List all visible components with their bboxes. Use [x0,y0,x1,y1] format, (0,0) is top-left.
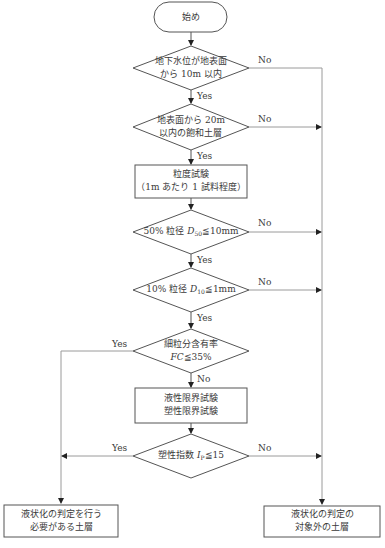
decision-saturated-line2: 以内の飽和土層 [157,127,225,140]
end-left-text: 液状化の判定を行う 必要がある土層 [21,508,102,534]
decision-plasticity-text: 塑性指数 IP≦15 [158,449,224,464]
flowchart-canvas [0,0,385,548]
end-right-line2: 対象外の土層 [291,521,354,534]
start-label: 始め [182,11,200,24]
decision3-no-label: No [258,218,271,228]
decision4-yes-label: Yes [197,313,212,323]
decision2-no-label: No [258,114,271,124]
decision-groundwater-line1: 地下水位が地表面 [155,55,227,68]
end-right-text: 液状化の判定の 対象外の土層 [291,508,354,534]
end-left-line1: 液状化の判定を行う [21,508,102,521]
decision-fines-line2: FC≦35% [164,351,218,364]
decision-fines-text: 細粒分含有率 FC≦35% [164,338,218,364]
process-atterberg-line1: 液性限界試験 [164,392,218,405]
decision6-no-label: No [258,443,271,453]
decision-d10-text: 10% 粒径 D10≦1mm [146,283,235,298]
decision3-yes-label: Yes [197,255,212,265]
decision1-yes-label: Yes [197,91,212,101]
end-left-line2: 必要がある土層 [21,521,102,534]
decision1-no-label: No [258,55,271,65]
decision-groundwater-text: 地下水位が地表面 から 10m 以内 [155,55,227,81]
end-right-line1: 液状化の判定の [291,508,354,521]
decision4-no-label: No [258,277,271,287]
decision6-yes-label: Yes [112,443,127,453]
decision-saturated-line1: 地表面から 20m [157,114,225,127]
decision5-no-label: No [197,374,210,384]
decision-d50-text: 50% 粒径 D50≦10mm [143,225,238,240]
decision-groundwater-line2: から 10m 以内 [155,68,227,81]
process-grain-size-line2: （1m あたり 1 試料程度） [136,181,246,194]
process-grain-size-text: 粒度試験 （1m あたり 1 試料程度） [136,168,246,194]
decision5-yes-label: Yes [112,339,127,349]
process-grain-size-line1: 粒度試験 [136,168,246,181]
process-atterberg-line2: 塑性限界試験 [164,405,218,418]
decision2-yes-label: Yes [197,151,212,161]
decision-saturated-layer-text: 地表面から 20m 以内の飽和土層 [157,114,225,140]
decision-fines-line1: 細粒分含有率 [164,338,218,351]
process-atterberg-text: 液性限界試験 塑性限界試験 [164,392,218,418]
